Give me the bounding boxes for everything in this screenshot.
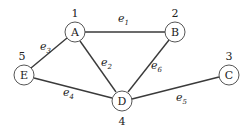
- graph-diagram: e1 e2 e3 e4 e5 e6 A 1 B: [0, 0, 251, 132]
- node-a-label: A: [70, 26, 80, 39]
- edge-label-e3: e3: [40, 40, 52, 55]
- node-c-label: C: [225, 69, 233, 82]
- node-e-label: E: [20, 69, 28, 82]
- node-a: A 1: [65, 7, 85, 42]
- node-d: D 4: [112, 91, 132, 128]
- edge-label-e2: e2: [101, 56, 113, 71]
- edges: [31, 32, 219, 99]
- node-d-label: D: [118, 95, 127, 108]
- edge-label-e6: e6: [151, 59, 163, 74]
- node-a-weight: 1: [72, 7, 79, 20]
- edge-label-e5: e5: [176, 91, 188, 106]
- node-b-label: B: [171, 26, 179, 39]
- edge-e6: [128, 40, 169, 92]
- node-c: C 3: [219, 50, 239, 85]
- node-b-weight: 2: [172, 7, 179, 20]
- edge-label-e1: e1: [118, 12, 129, 27]
- node-b: B 2: [165, 7, 185, 42]
- node-d-weight: 4: [119, 115, 126, 128]
- node-e-weight: 5: [19, 50, 26, 63]
- node-c-weight: 3: [226, 50, 233, 63]
- edge-labels: e1 e2 e3 e4 e5 e6: [40, 12, 188, 106]
- node-e: E 5: [14, 50, 34, 85]
- graph-svg: e1 e2 e3 e4 e5 e6 A 1 B: [0, 0, 251, 132]
